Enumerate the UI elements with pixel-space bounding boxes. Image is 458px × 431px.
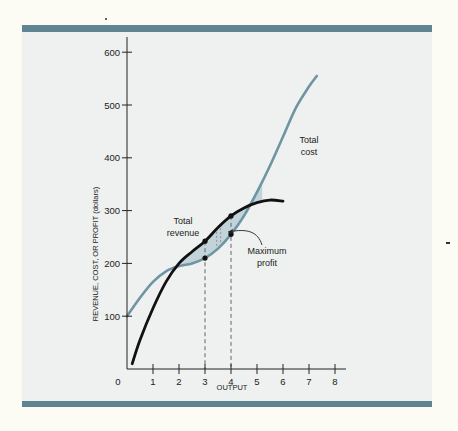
total-cost-label: Total — [299, 135, 318, 145]
total-revenue-label: Total — [173, 216, 192, 226]
y-tick-label: 500 — [104, 100, 120, 111]
axes: 100200300400500600012345678 — [104, 37, 346, 387]
data-point — [228, 213, 233, 218]
data-point — [202, 239, 207, 244]
max-profit-label-2: profit — [257, 258, 278, 268]
x-axis-label: OUTPUT — [217, 383, 248, 392]
x-tick-label: 7 — [306, 376, 311, 387]
x-tick-label: 6 — [280, 376, 285, 387]
y-tick-label: 300 — [104, 205, 120, 216]
y-tick-label: 200 — [104, 258, 120, 269]
x-tick-label: 1 — [150, 376, 155, 387]
y-tick-label: 400 — [104, 152, 120, 163]
max-profit-label: Maximum — [247, 246, 286, 256]
total-cost-curve — [127, 76, 317, 316]
total-revenue-label-2: revenue — [167, 228, 200, 238]
chart: 100200300400500600012345678 REVENUE, COS… — [0, 0, 458, 431]
x-tick-label: 3 — [202, 376, 207, 387]
total-cost-label-2: cost — [301, 147, 318, 157]
y-tick-label: 600 — [104, 47, 120, 58]
x-tick-label: 0 — [115, 376, 120, 387]
data-point — [202, 256, 207, 261]
x-tick-label: 8 — [332, 376, 337, 387]
curves — [127, 76, 317, 364]
y-axis-label: REVENUE, COST, OR PROFIT (dollars) — [91, 186, 100, 321]
x-tick-label: 2 — [176, 376, 181, 387]
y-tick-label: 100 — [104, 311, 120, 322]
x-tick-label: 5 — [254, 376, 259, 387]
